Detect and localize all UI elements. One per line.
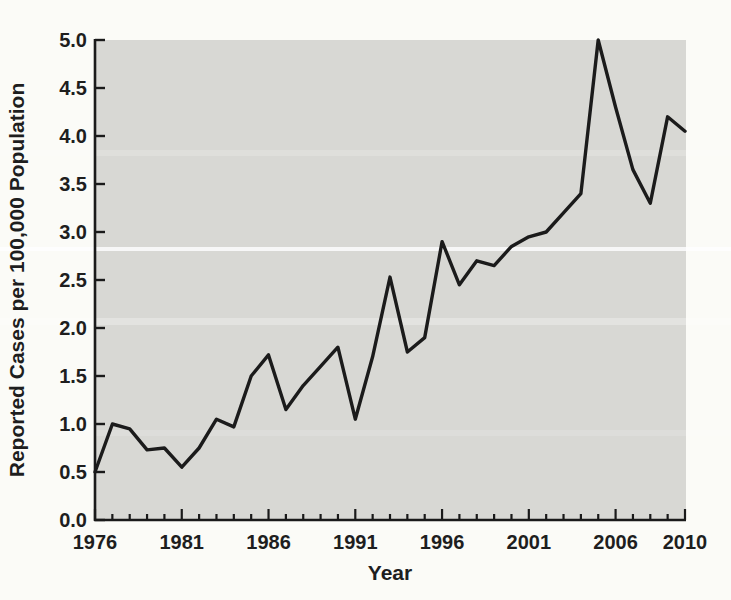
- x-tick-label: 1976: [73, 531, 118, 553]
- y-tick-label: 1.5: [59, 365, 87, 387]
- x-tick-label: 2006: [593, 531, 638, 553]
- y-tick-label: 4.5: [59, 77, 87, 99]
- scan-band: [0, 318, 731, 325]
- x-axis-label: Year: [368, 561, 412, 584]
- y-tick-label: 4.0: [59, 125, 87, 147]
- chart-canvas: 0.00.51.01.52.02.53.03.54.04.55.0 197619…: [0, 0, 731, 600]
- y-tick-label: 3.0: [59, 221, 87, 243]
- y-tick-label: 3.5: [59, 173, 87, 195]
- y-tick-label: 0.5: [59, 461, 87, 483]
- x-tick-label: 2010: [663, 531, 708, 553]
- x-tick-label: 1996: [420, 531, 465, 553]
- y-axis-label: Reported Cases per 100,000 Population: [5, 83, 28, 477]
- chart-figure: 0.00.51.01.52.02.53.03.54.04.55.0 197619…: [0, 0, 731, 600]
- scan-band: [0, 150, 731, 156]
- y-tick-label: 0.0: [59, 509, 87, 531]
- x-tick-label: 1986: [246, 531, 291, 553]
- scan-band: [0, 247, 731, 251]
- x-tick-label: 1991: [333, 531, 378, 553]
- y-tick-label: 1.0: [59, 413, 87, 435]
- y-tick-label: 2.0: [59, 317, 87, 339]
- y-tick-label: 2.5: [59, 269, 87, 291]
- y-tick-label: 5.0: [59, 29, 87, 51]
- x-tick-label: 2001: [507, 531, 552, 553]
- x-tick-label: 1981: [160, 531, 205, 553]
